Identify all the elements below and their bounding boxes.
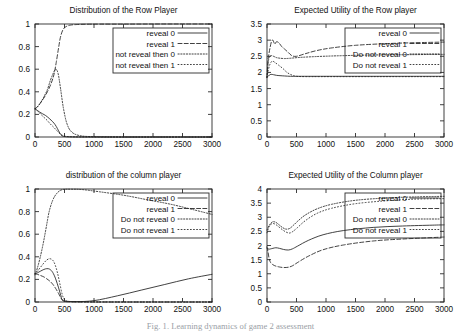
legend-label-3: not reveal then 1 <box>115 61 175 70</box>
y-tick-label: 0.8 <box>19 208 31 217</box>
panel-row-distribution: Distribution of the Row Player00.20.40.6… <box>0 0 229 165</box>
y-tick-label: 3 <box>257 36 262 45</box>
x-tick-label: 1500 <box>346 305 365 314</box>
series-line-1 <box>267 237 444 268</box>
x-tick-label: 0 <box>33 140 38 149</box>
x-tick-label: 2500 <box>405 305 424 314</box>
plot-frame <box>267 24 444 137</box>
x-tick-label: 1500 <box>114 140 133 149</box>
x-tick-label: 3000 <box>203 305 222 314</box>
figure-container: Distribution of the Row Player00.20.40.6… <box>0 0 461 336</box>
x-tick-label: 500 <box>58 140 72 149</box>
x-tick-label: 3000 <box>203 140 222 149</box>
y-tick-label: 0.2 <box>19 110 31 119</box>
y-tick-label: 1.5 <box>251 85 263 94</box>
x-tick-label: 1000 <box>85 305 104 314</box>
legend-label-3: Do not reveal 1 <box>353 61 408 70</box>
panel-row-utility: Expected Utility of the Row player00.511… <box>232 0 461 165</box>
x-tick-label: 500 <box>290 305 304 314</box>
x-tick-label: 2000 <box>376 140 395 149</box>
y-tick-label: 0 <box>25 298 30 307</box>
x-tick-label: 3000 <box>435 140 454 149</box>
y-tick-label: 1 <box>257 101 262 110</box>
y-tick-label: 4 <box>257 185 262 194</box>
legend-label-2: Do not reveal 0 <box>353 215 408 224</box>
y-tick-label: 0.4 <box>19 253 31 262</box>
legend-label-2: not reveal then 0 <box>115 50 175 59</box>
x-tick-label: 0 <box>265 305 270 314</box>
y-tick-label: 2.5 <box>251 227 263 236</box>
y-tick-label: 0 <box>25 133 30 142</box>
legend-label-0: reveal 0 <box>147 29 176 38</box>
x-tick-label: 3000 <box>435 305 454 314</box>
plot-frame <box>267 189 444 302</box>
series-line-0 <box>35 109 212 137</box>
legend-label-3: Do not reveal 1 <box>353 226 408 235</box>
y-tick-label: 3 <box>257 213 262 222</box>
x-tick-label: 2000 <box>144 305 163 314</box>
x-tick-label: 2500 <box>173 140 192 149</box>
plot-frame <box>35 189 212 302</box>
x-tick-label: 2000 <box>144 140 163 149</box>
x-tick-label: 1500 <box>114 305 133 314</box>
chart-title: distribution of the column player <box>66 171 182 180</box>
x-tick-label: 2500 <box>405 140 424 149</box>
y-tick-label: 0.6 <box>19 230 31 239</box>
y-tick-label: 1 <box>25 20 30 29</box>
y-tick-label: 2 <box>257 68 262 77</box>
chart-title: Distribution of the Row Player <box>70 6 178 15</box>
y-tick-label: 0.5 <box>251 117 263 126</box>
y-tick-label: 0.6 <box>19 65 31 74</box>
y-tick-label: 0.5 <box>251 284 263 293</box>
y-tick-label: 3.5 <box>251 199 263 208</box>
y-tick-label: 1 <box>25 185 30 194</box>
x-tick-label: 0 <box>265 140 270 149</box>
legend-label-0: reveal 0 <box>379 29 408 38</box>
legend-label-0: reveal 0 <box>147 194 176 203</box>
y-tick-label: 2 <box>257 242 262 251</box>
legend-label-1: reveal 1 <box>379 205 408 214</box>
y-tick-label: 0.4 <box>19 88 31 97</box>
series-line-3 <box>35 109 212 137</box>
legend-label-2: Do not reveal 0 <box>353 50 408 59</box>
x-tick-label: 1000 <box>317 305 336 314</box>
legend-label-1: reveal 1 <box>147 205 176 214</box>
y-tick-label: 1 <box>257 270 262 279</box>
legend-label-3: Do not reveal 1 <box>121 226 176 235</box>
panel-column-utility: Expected Utility of the Column player00.… <box>232 165 461 330</box>
series-line-3 <box>35 259 212 302</box>
x-tick-label: 2500 <box>173 305 192 314</box>
panel-column-distribution: distribution of the column player00.20.4… <box>0 165 229 330</box>
x-tick-label: 2000 <box>376 305 395 314</box>
x-tick-label: 500 <box>58 305 72 314</box>
x-tick-label: 1500 <box>346 140 365 149</box>
series-line-2 <box>35 69 212 137</box>
y-tick-label: 0 <box>257 133 262 142</box>
x-tick-label: 500 <box>290 140 304 149</box>
series-line-0 <box>35 269 212 302</box>
plot-frame <box>35 24 212 137</box>
y-tick-label: 3.5 <box>251 20 263 29</box>
x-tick-label: 1000 <box>317 140 336 149</box>
y-tick-label: 0 <box>257 298 262 307</box>
chart-title: Expected Utility of the Column player <box>288 171 423 180</box>
legend-label-0: reveal 0 <box>379 194 408 203</box>
y-tick-label: 0.8 <box>19 43 31 52</box>
y-tick-label: 2.5 <box>251 52 263 61</box>
x-tick-label: 0 <box>33 305 38 314</box>
legend-label-1: reveal 1 <box>379 40 408 49</box>
x-tick-label: 1000 <box>85 140 104 149</box>
legend-label-1: reveal 1 <box>147 40 176 49</box>
y-tick-label: 1.5 <box>251 256 263 265</box>
legend-label-2: Do not reveal 0 <box>121 215 176 224</box>
chart-title: Expected Utility of the Row player <box>294 6 417 15</box>
figure-caption: Fig. 1. Learning dynamics of game 2 asse… <box>0 321 461 336</box>
y-tick-label: 0.2 <box>19 275 31 284</box>
